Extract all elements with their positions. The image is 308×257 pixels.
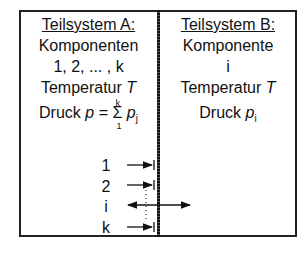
blocked-arrow-1-icon	[127, 160, 154, 170]
arrows-layer	[0, 0, 308, 257]
blocked-arrow-2-icon	[127, 180, 154, 190]
blocked-arrow-k-icon	[127, 222, 154, 232]
